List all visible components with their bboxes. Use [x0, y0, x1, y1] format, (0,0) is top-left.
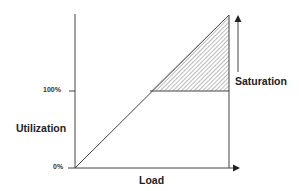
y-axis-label: Utilization	[16, 122, 66, 134]
tick-label-0: 0%	[53, 163, 63, 170]
x-axis-arrow-icon	[233, 165, 240, 172]
diagram-canvas	[0, 0, 299, 191]
tick-label-100: 100%	[43, 86, 61, 93]
saturation-label: Saturation	[235, 75, 287, 87]
utilization-saturation-diagram: 100% 0% Utilization Load Saturation	[0, 0, 299, 191]
saturation-arrow-icon	[235, 15, 242, 22]
x-axis-label: Load	[139, 174, 164, 186]
